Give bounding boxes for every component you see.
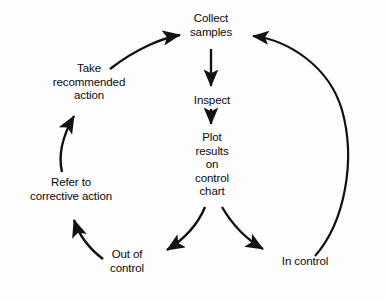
edge-in-control-to-collect xyxy=(253,36,348,256)
node-out-of-control: Out of control xyxy=(101,248,153,275)
edge-plot-to-out-of-control xyxy=(167,207,205,250)
edge-refer-to-take xyxy=(61,116,75,172)
edge-plot-to-in-control xyxy=(222,207,263,249)
node-inspect: Inspect xyxy=(186,94,238,108)
node-in-control: In control xyxy=(274,255,336,269)
node-take-recommended-action: Take recommended action xyxy=(43,62,135,103)
node-refer-to-corrective-action: Refer to corrective action xyxy=(15,176,127,203)
edge-out-of-control-to-refer xyxy=(74,220,103,259)
flowchart-diagram: Collect samples Inspect Plot results on … xyxy=(0,0,387,301)
node-plot-results-on-control-chart: Plot results on control chart xyxy=(184,131,240,199)
node-collect-samples: Collect samples xyxy=(178,12,244,39)
